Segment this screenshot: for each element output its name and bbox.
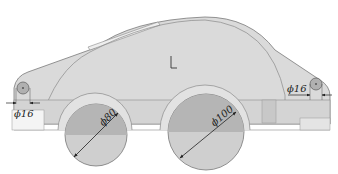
right-pin-dim-label: ϕ16 [287, 83, 307, 94]
rear-panel [262, 100, 276, 123]
right-bumper [300, 118, 330, 130]
car-drawing: ϕ80 ϕ100 ϕ16 ϕ16 [0, 0, 338, 174]
left-pin-dim-label: ϕ16 [14, 108, 34, 119]
